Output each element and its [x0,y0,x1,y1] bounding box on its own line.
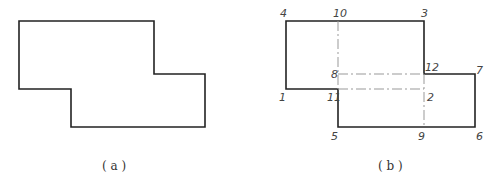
point-label-3: 3 [421,8,428,19]
point-label-7: 7 [476,65,483,76]
diagram-canvas [0,0,496,188]
shape-a-outline [19,21,205,127]
point-label-11: 11 [327,92,341,103]
point-label-10: 10 [333,8,347,19]
caption-b: ( b ) [378,160,403,172]
point-label-9: 9 [418,131,425,142]
dash-dot-lines [338,21,424,127]
point-label-2: 2 [427,92,434,103]
point-label-12: 12 [425,62,439,73]
point-label-4: 4 [280,8,287,19]
point-label-8: 8 [331,69,338,80]
point-label-1: 1 [279,92,286,103]
figure-root: ( a ) ( b ) 123456789101112 [0,0,496,188]
point-label-6: 6 [476,131,483,142]
caption-a: ( a ) [102,160,126,172]
point-label-5: 5 [331,131,338,142]
